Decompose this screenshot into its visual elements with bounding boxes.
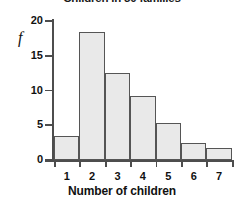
x-tick-2 xyxy=(105,160,107,167)
y-axis-label: f xyxy=(18,29,22,47)
histogram-figure: Children in 50 families f 05101520 12345… xyxy=(0,0,244,204)
chart-title: Children in 50 families xyxy=(0,0,244,4)
bar-5 xyxy=(156,123,181,160)
x-tick-label-4: 4 xyxy=(130,170,156,182)
y-tick-5 xyxy=(45,124,53,126)
y-tick-label-15: 15 xyxy=(13,49,43,61)
y-tick-15 xyxy=(45,55,53,57)
x-tick-label-2: 2 xyxy=(79,170,105,182)
x-tick-label-1: 1 xyxy=(54,170,80,182)
y-tick-label-20: 20 xyxy=(13,14,43,26)
y-tick-label-5: 5 xyxy=(13,118,43,130)
x-tick-label-3: 3 xyxy=(105,170,131,182)
y-tick-label-10: 10 xyxy=(13,84,43,96)
bar-1 xyxy=(54,136,79,160)
plot-area xyxy=(54,21,232,160)
bar-2 xyxy=(79,32,104,160)
x-tick-label-7: 7 xyxy=(206,170,232,182)
x-tick-label-6: 6 xyxy=(181,170,207,182)
bar-7 xyxy=(206,148,231,160)
bar-6 xyxy=(181,143,206,160)
x-tick-4 xyxy=(156,160,158,167)
x-tick-3 xyxy=(130,160,132,167)
x-tick-5 xyxy=(181,160,183,167)
y-tick-10 xyxy=(45,90,53,92)
y-tick-20 xyxy=(45,20,53,22)
x-tick-7 xyxy=(232,160,234,167)
y-tick-0 xyxy=(45,159,53,161)
y-tick-label-0: 0 xyxy=(13,153,43,165)
bar-4 xyxy=(130,96,155,160)
x-tick-0 xyxy=(54,160,56,167)
x-tick-6 xyxy=(206,160,208,167)
bar-3 xyxy=(105,73,130,160)
x-tick-1 xyxy=(79,160,81,167)
x-axis-title: Number of children xyxy=(0,184,244,198)
x-tick-label-5: 5 xyxy=(155,170,181,182)
